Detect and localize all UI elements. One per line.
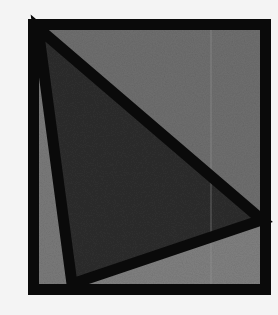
triangle-in-rectangle-diagram [0,0,278,315]
